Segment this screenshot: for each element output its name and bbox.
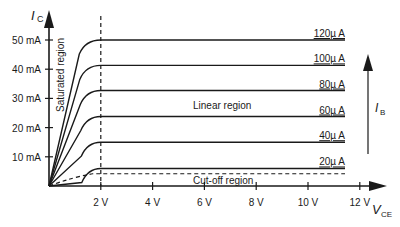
curve-label: 40µ A xyxy=(319,130,345,141)
cutoff-region-label: Cut-off region xyxy=(193,175,253,186)
x-axis-label-sub: CE xyxy=(381,210,392,219)
curve-label: 20µ A xyxy=(319,156,345,167)
y-tick-label: 20 mA xyxy=(12,123,41,134)
x-axis-arrow-icon xyxy=(369,181,387,191)
curve-label: 80µ A xyxy=(319,79,345,90)
y-tick-label: 30 mA xyxy=(12,93,41,104)
ic-curve xyxy=(49,40,345,186)
y-tick-label: 50 mA xyxy=(12,35,41,46)
transistor-characteristics-chart: ICVCE10 mA20 mA30 mA40 mA50 mA2 V4 V6 V8… xyxy=(0,0,400,227)
x-tick-label: 8 V xyxy=(249,197,264,208)
y-axis-label: I xyxy=(31,8,35,23)
saturated-region-label: Saturated region xyxy=(55,38,66,112)
curve-label: 60µ A xyxy=(319,105,345,116)
ib-arrow-head-icon xyxy=(363,54,373,71)
curve-label: 120µ A xyxy=(314,28,346,39)
ib-arrow-label-sub: B xyxy=(380,108,385,117)
y-tick-label: 40 mA xyxy=(12,64,41,75)
x-tick-label: 10 V xyxy=(298,197,319,208)
ib-arrow-label: I xyxy=(375,101,379,115)
chart-canvas: ICVCE10 mA20 mA30 mA40 mA50 mA2 V4 V6 V8… xyxy=(0,0,400,227)
curve-label: 100µ A xyxy=(314,53,346,64)
x-tick-label: 2 V xyxy=(93,197,108,208)
y-axis-label-sub: C xyxy=(37,14,44,24)
linear-region-label: Linear region xyxy=(193,100,251,111)
x-tick-label: 12 V xyxy=(350,197,371,208)
y-axis-arrow-icon xyxy=(44,10,54,28)
x-tick-label: 6 V xyxy=(197,197,212,208)
y-tick-label: 10 mA xyxy=(12,152,41,163)
x-tick-label: 4 V xyxy=(145,197,160,208)
